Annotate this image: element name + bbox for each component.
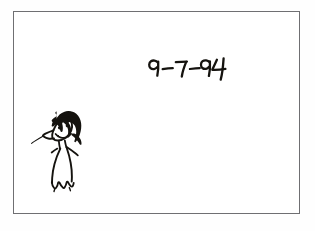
handwritten-date-label: 9-7-94 <box>146 52 238 82</box>
sketch-page: 9-7-94 <box>0 0 315 231</box>
paper-frame-border <box>13 11 300 214</box>
